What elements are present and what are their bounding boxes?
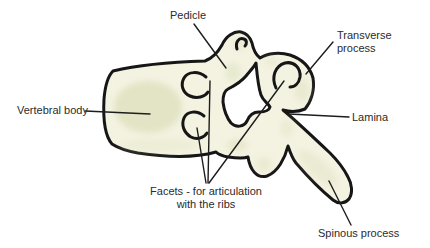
shading-blob — [294, 78, 310, 102]
label-vertebral-body: Vertebral body — [17, 104, 88, 117]
label-facets: Facets - for articulation with the ribs — [146, 185, 266, 211]
vertebra-diagram: Pedicle Transverse process Vertebral bod… — [0, 0, 430, 248]
shading-blob — [114, 81, 182, 133]
shading-blob — [256, 157, 272, 171]
shading-blob — [120, 138, 200, 152]
label-lamina: Lamina — [352, 111, 388, 124]
leader-line-transverse-process — [306, 42, 333, 74]
shading-blob — [225, 62, 241, 82]
leader-line-lamina — [289, 114, 349, 117]
label-pedicle: Pedicle — [170, 9, 206, 22]
shading-blob — [280, 119, 294, 137]
label-spinous-process: Spinous process — [318, 227, 399, 240]
label-transverse-process: Transverse process — [337, 29, 430, 55]
